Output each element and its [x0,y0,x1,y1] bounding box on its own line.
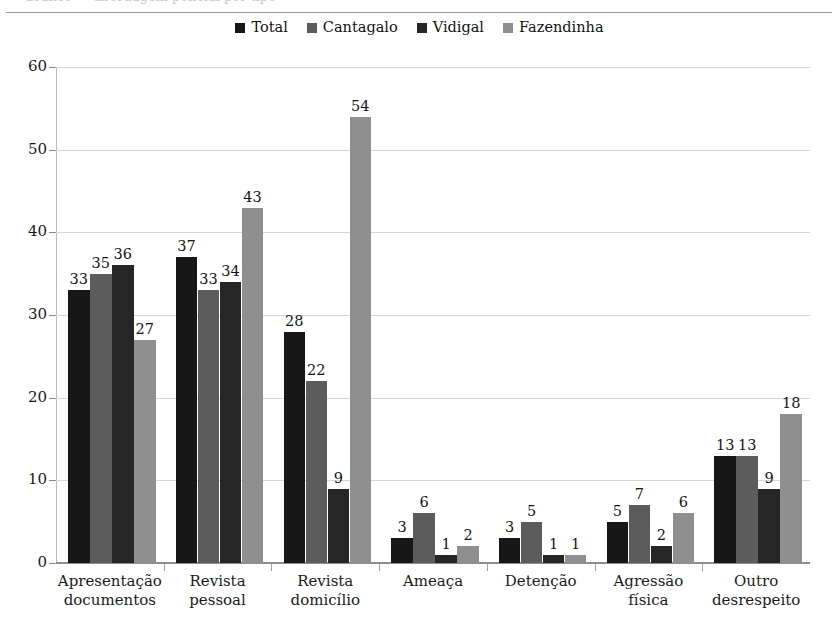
bar: 27 [134,67,156,563]
category-label: Apresentaçãodocumentos [56,572,164,610]
category-label-line-1: Revista [164,572,272,591]
bar-rect-total [176,257,198,563]
category-tick-mark [702,563,703,571]
y-tick-mark-10 [49,480,56,481]
bar: 6 [413,67,435,563]
bar-group: 37333443 [176,67,264,563]
y-tick-mark-50 [49,150,56,151]
category-label-line-2: domicílio [271,591,379,610]
bar-rect-cantagalo [90,274,112,563]
y-tick-label-50: 50 [7,142,47,157]
bar-group: 33353627 [68,67,156,563]
bar: 54 [350,67,372,563]
plot-area: 0102030405060 33353627373334432822954361… [56,67,810,563]
bar-rect-fazendinha [242,208,264,563]
bar-rect-vidigal [435,555,457,563]
y-tick-label-20: 20 [7,390,47,405]
y-tick-mark-30 [49,315,56,316]
horizontal-rule [6,12,832,13]
legend-item-total: Total [235,20,287,35]
category-label: Revistadomicílio [271,572,379,610]
bar-rect-fazendinha [673,513,695,563]
legend-label: Total [251,20,287,35]
bar-value-label: 2 [448,528,488,543]
bar-value-label: 18 [771,396,811,411]
y-tick-label-0: 0 [7,555,47,570]
category-tick-mark [164,563,165,571]
bar-chart-figure: Gráfico — abordagem policial por tipo To… [0,0,839,619]
bar: 1 [543,67,565,563]
bar: 28 [284,67,306,563]
legend-swatch-icon [503,23,513,33]
bar-rect-vidigal [328,489,350,563]
bar: 1 [565,67,587,563]
category-label: Outrodesrespeito [702,572,810,610]
y-tick-mark-0 [49,563,56,564]
bar: 9 [758,67,780,563]
bar: 6 [673,67,695,563]
bar-rect-fazendinha [134,340,156,563]
bar-rect-total [68,290,90,563]
bar-value-label: 54 [340,99,380,114]
bar: 7 [629,67,651,563]
bar-rect-total [714,456,736,563]
category-label: Revistapessoal [164,572,272,610]
bar-rect-vidigal [543,555,565,563]
y-tick-label-30: 30 [7,307,47,322]
y-tick-mark-60 [49,67,56,68]
bar-group: 2822954 [284,67,372,563]
legend-item-fazendinha: Fazendinha [503,20,604,35]
category-label-line-2: documentos [56,591,164,610]
category-tick-mark [487,563,488,571]
bar: 2 [457,67,479,563]
y-tick-label-40: 40 [7,224,47,239]
legend-swatch-icon [307,23,317,33]
category-label-line-1: Apresentação [56,572,164,591]
legend-item-cantagalo: Cantagalo [307,20,398,35]
legend-label: Vidigal [433,20,484,35]
category-label-line-2: desrespeito [702,591,810,610]
cropped-caption-remnant: Gráfico — abordagem policial por tipo [24,0,324,11]
bar: 13 [714,67,736,563]
bar-rect-fazendinha [350,117,372,563]
category-label-line-1: Revista [271,572,379,591]
bar-rect-total [499,538,521,563]
bar: 13 [736,67,758,563]
bar: 34 [220,67,242,563]
category-label-line-2: pessoal [164,591,272,610]
bar: 36 [112,67,134,563]
category-tick-mark [271,563,272,571]
gridline-0 [56,563,810,564]
category-label-line-1: Agressão [595,572,703,591]
bar-value-label: 27 [125,322,165,337]
bar-group: 1313918 [714,67,802,563]
bar: 1 [435,67,457,563]
bar-rect-vidigal [651,546,673,563]
bar: 33 [68,67,90,563]
legend-label: Cantagalo [323,20,398,35]
bar: 35 [90,67,112,563]
y-tick-mark-40 [49,232,56,233]
legend-swatch-icon [417,23,427,33]
bar-value-label: 1 [556,537,596,552]
category-label-line-2: física [595,591,703,610]
bar-rect-vidigal [112,265,134,563]
y-tick-label-10: 10 [7,472,47,487]
bar-rect-fazendinha [780,414,802,563]
bar: 5 [521,67,543,563]
category-label: Ameaça [379,572,487,591]
category-label-line-1: Detenção [487,572,595,591]
bar: 18 [780,67,802,563]
category-axis-labels: ApresentaçãodocumentosRevistapessoalRevi… [56,572,810,618]
bar-rect-cantagalo [198,290,220,563]
bar-value-label: 6 [663,495,703,510]
bar: 3 [499,67,521,563]
bar-value-label: 43 [233,190,273,205]
bar-rect-fazendinha [565,555,587,563]
bar-rect-total [607,522,629,563]
bar: 43 [242,67,264,563]
bar: 9 [328,67,350,563]
bar-rect-vidigal [758,489,780,563]
category-label-line-1: Outro [702,572,810,591]
bar: 3 [391,67,413,563]
